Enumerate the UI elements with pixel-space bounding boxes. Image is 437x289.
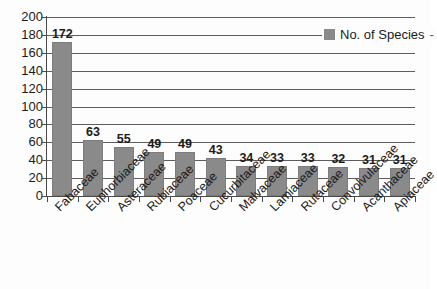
plot-area: 1726355494943343333323131	[47, 17, 415, 196]
y-tick-label: 100	[9, 100, 43, 113]
x-tick-mark	[292, 196, 293, 202]
x-tick-mark	[139, 196, 140, 202]
legend-label: No. of Species	[340, 28, 425, 41]
gridline	[47, 71, 415, 72]
x-tick-mark	[384, 196, 385, 202]
y-tick-label: 80	[9, 117, 43, 130]
x-tick-mark	[170, 196, 171, 202]
y-tick-label: 60	[9, 135, 43, 148]
x-tick-mark	[200, 196, 201, 202]
y-tick-label: 200	[9, 10, 43, 23]
bar[interactable]	[52, 42, 72, 196]
gridline	[47, 17, 415, 18]
x-tick-mark	[415, 196, 416, 202]
gridline	[47, 53, 415, 54]
legend-trailing-tick: -	[430, 28, 434, 41]
chart-legend: No. of Species -	[322, 28, 436, 41]
y-tick-label: 20	[9, 171, 43, 184]
x-tick-mark	[354, 196, 355, 202]
y-tick-label: 0	[9, 189, 43, 202]
x-tick-mark	[323, 196, 324, 202]
y-tick-label: 160	[9, 46, 43, 59]
x-tick-mark	[262, 196, 263, 202]
bar-value-label: 172	[42, 28, 82, 41]
x-tick-mark	[78, 196, 79, 202]
gridline	[47, 107, 415, 108]
x-tick-mark	[108, 196, 109, 202]
legend-color-swatch	[324, 29, 335, 40]
y-tick-label: 140	[9, 64, 43, 77]
x-tick-mark	[231, 196, 232, 202]
y-tick-label: 120	[9, 82, 43, 95]
y-tick-label: 40	[9, 153, 43, 166]
gridline	[47, 89, 415, 90]
y-tick-label: 180	[9, 28, 43, 41]
y-axis: 020406080100120140160180200	[0, 0, 43, 289]
x-tick-mark	[47, 196, 48, 202]
